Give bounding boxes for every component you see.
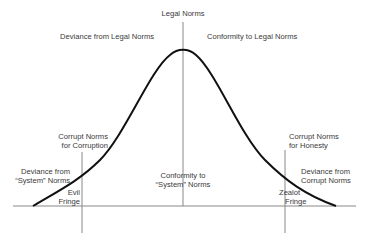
corrupt-norms-honesty-label: Corrupt Norms for Honesty [289, 132, 339, 150]
deviance-system-label: Deviance from “System” Norms [4, 167, 70, 185]
zealot-fringe-label: Zealot Fringe [279, 188, 307, 206]
deviance-legal-label: Deviance from Legal Norms [60, 32, 154, 41]
corrupt-norms-corruption-label: Corrupt Norms for Corruption [46, 132, 108, 150]
legal-norms-label: Legal Norms [150, 9, 216, 18]
evil-fringe-label: Evil Fringe [50, 188, 80, 206]
deviance-corrupt-label: Deviance from Corrupt Norms [301, 167, 351, 185]
conformity-system-label: Conformity to “System” Norms [148, 171, 218, 189]
bell-curve-diagram [0, 0, 365, 243]
conformity-legal-label: Conformity to Legal Norms [207, 32, 297, 41]
